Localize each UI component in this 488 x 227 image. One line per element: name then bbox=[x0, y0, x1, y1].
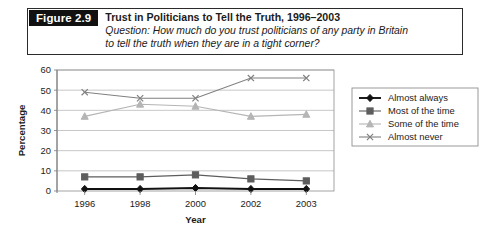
x-axis-tick-label: 1996 bbox=[74, 198, 95, 209]
figure-caption-box: Figure 2.9 Trust in Politicians to Tell … bbox=[27, 8, 463, 55]
x-axis-tick-label: 2003 bbox=[296, 198, 317, 209]
y-axis-tick-label: 40 bbox=[41, 105, 51, 116]
data-point-marker bbox=[248, 176, 254, 182]
data-point-marker bbox=[82, 174, 88, 180]
x-axis-tick-label: 2002 bbox=[240, 198, 261, 209]
legend-label: Most of the time bbox=[388, 105, 455, 116]
data-point-marker bbox=[303, 178, 309, 184]
y-axis-tick-label: 20 bbox=[41, 145, 51, 156]
legend-label: Some of the time bbox=[388, 118, 459, 129]
y-axis-tick-label: 50 bbox=[41, 85, 51, 96]
legend-marker bbox=[367, 94, 374, 101]
legend-item: Almost always bbox=[359, 92, 448, 103]
line-chart: 0102030405060 19961998200020022003 Perce… bbox=[0, 62, 488, 227]
y-axis-tick-labels-group: 0102030405060 bbox=[41, 64, 51, 196]
y-axis-title: Percentage bbox=[16, 105, 27, 157]
y-axis-tick-label: 30 bbox=[41, 125, 51, 136]
legend-item: Some of the time bbox=[359, 118, 459, 129]
x-axis-tick-label: 1998 bbox=[130, 198, 151, 209]
gridlines-group bbox=[57, 70, 334, 171]
data-series bbox=[82, 75, 310, 101]
y-axis-tick-label: 10 bbox=[41, 165, 51, 176]
legend-label: Almost always bbox=[388, 92, 448, 103]
figure-question-line-2: to tell the truth when they are in a tig… bbox=[105, 38, 457, 51]
chart-container: 0102030405060 19961998200020022003 Perce… bbox=[0, 62, 488, 227]
y-axis-tick-label: 60 bbox=[41, 64, 51, 75]
figure-question: Question: How much do you trust politici… bbox=[105, 25, 457, 50]
data-point-marker bbox=[192, 184, 199, 191]
data-point-marker bbox=[137, 174, 143, 180]
figure-caption-text: Trust in Politicians to Tell the Truth, … bbox=[98, 9, 462, 54]
legend-label: Almost never bbox=[388, 131, 443, 142]
chart-legend: Almost alwaysMost of the timeSome of the… bbox=[352, 88, 478, 146]
x-axis-title: Year bbox=[185, 214, 206, 225]
figure-question-line-1: Question: How much do you trust politici… bbox=[105, 25, 457, 38]
x-axis-tick-label: 2000 bbox=[185, 198, 206, 209]
data-series-group bbox=[81, 75, 310, 193]
x-axis-tick-labels-group: 19961998200020022003 bbox=[74, 198, 316, 209]
data-series bbox=[82, 172, 310, 184]
y-axis-tick-label: 0 bbox=[46, 185, 51, 196]
legend-marker bbox=[367, 108, 373, 114]
figure-number-badge: Figure 2.9 bbox=[29, 10, 98, 26]
legend-item: Most of the time bbox=[359, 105, 455, 116]
figure-title: Trust in Politicians to Tell the Truth, … bbox=[105, 11, 458, 24]
data-point-marker bbox=[192, 172, 198, 178]
legend-item: Almost never bbox=[359, 131, 443, 142]
x-axis-ticks-group bbox=[85, 191, 307, 195]
